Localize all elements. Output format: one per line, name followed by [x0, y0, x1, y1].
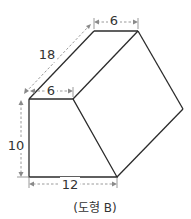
dim-depth-line — [26, 26, 89, 92]
arrow-up-icon — [19, 100, 24, 105]
arrow-right-icon — [68, 89, 73, 94]
arrow-left-icon — [29, 182, 34, 187]
label-bottom-width: 12 — [62, 177, 79, 192]
label-back-top-width: 6 — [110, 13, 118, 28]
arrow-left-icon — [30, 89, 35, 94]
label-height: 10 — [8, 138, 25, 153]
bottom-right-depth-edge — [117, 109, 183, 177]
prism-diagram: 6 18 6 10 12 (도형 B) — [0, 0, 191, 219]
label-front-top-width: 6 — [47, 83, 55, 98]
top-left-depth-edge — [29, 31, 94, 99]
back-right-edge — [138, 31, 183, 109]
arrow-right-icon — [133, 20, 138, 25]
front-face — [29, 99, 117, 177]
figure-caption: (도형 B) — [73, 201, 116, 215]
arrow-down-left-icon — [24, 88, 29, 94]
top-right-depth-edge — [73, 31, 138, 99]
label-depth: 18 — [39, 47, 56, 62]
arrow-up-right-icon — [86, 24, 91, 29]
arrow-down-icon — [19, 172, 24, 177]
arrow-left-icon — [94, 20, 99, 25]
dimension-lines — [17, 18, 138, 188]
arrow-right-icon — [112, 182, 117, 187]
